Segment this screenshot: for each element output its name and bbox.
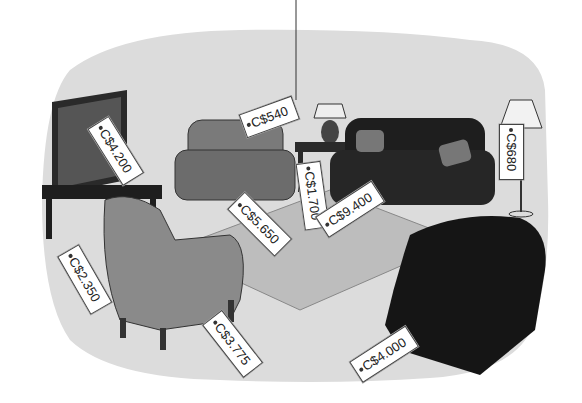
price-tag-floor-lamp: C$680	[499, 124, 524, 180]
living-room-illustration	[0, 0, 582, 403]
loveseat	[175, 120, 295, 200]
